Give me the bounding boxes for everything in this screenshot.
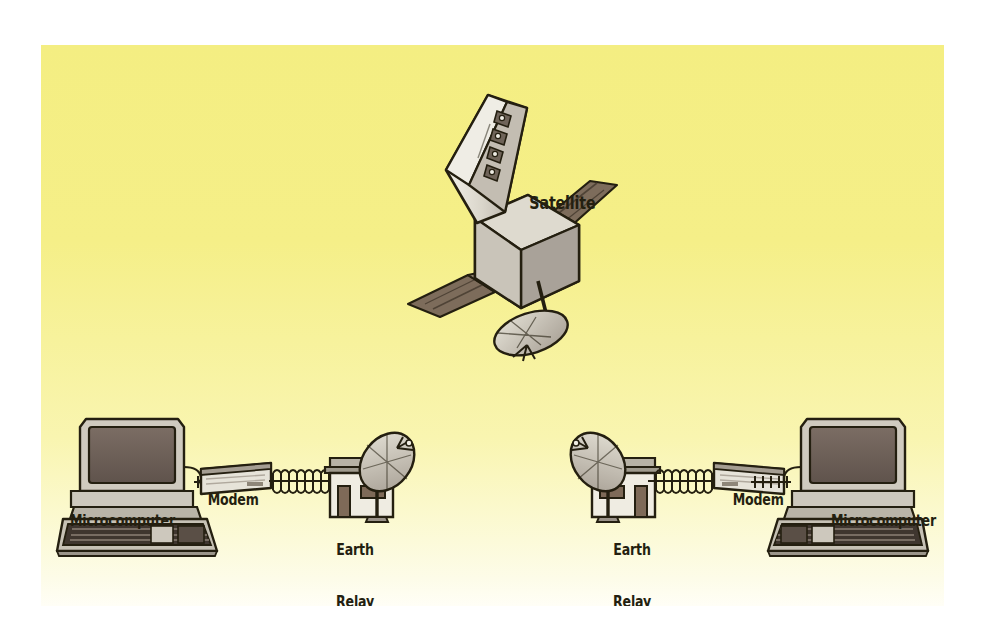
label-microcomputer-left: Microcomputer	[70, 513, 154, 530]
satellite-graphic	[408, 95, 617, 364]
modem-right-graphic	[714, 463, 784, 494]
satellite-network-diagram	[41, 45, 944, 606]
diagram-panel: Satellite Microcomputer Modem Earth Rela…	[41, 45, 944, 606]
label-line-earth: Earth	[608, 542, 655, 559]
illustration-canvas: Satellite Microcomputer Modem Earth Rela…	[0, 0, 982, 633]
label-microcomputer-right: Microcomputer	[831, 513, 915, 530]
modem-left-graphic	[201, 463, 271, 494]
label-line-relay: Relay	[608, 594, 655, 606]
microcomputer-right-graphic	[768, 419, 928, 556]
label-modem-left: Modem	[208, 492, 257, 509]
label-earth-relay-station-left: Earth Relay Station	[331, 507, 378, 606]
label-modem-right: Modem	[733, 492, 782, 509]
label-line-relay: Relay	[331, 594, 378, 606]
label-satellite: Satellite	[529, 194, 595, 214]
microcomputer-left-graphic	[57, 419, 217, 556]
label-earth-relay-station-right: Earth Relay Station	[608, 507, 655, 606]
label-line-earth: Earth	[331, 542, 378, 559]
